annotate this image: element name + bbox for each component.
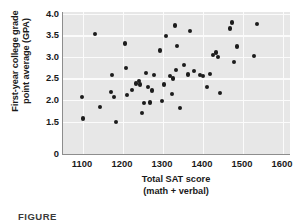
y-tick-label: 2.0 (33, 94, 59, 105)
scatter-point (144, 71, 148, 75)
scatter-point (178, 106, 182, 110)
x-tick-label: 1400 (182, 158, 222, 169)
x-tick-label: 1300 (142, 158, 182, 169)
scatter-point (208, 72, 212, 76)
plot-area (62, 12, 290, 155)
scatter-point (138, 82, 142, 86)
x-tick-label: 1100 (62, 158, 102, 169)
y-tick-label: 3.5 (33, 29, 59, 40)
scatter-point (173, 23, 177, 27)
scatter-point (216, 55, 220, 59)
scatter-point (232, 60, 236, 64)
scatter-point (130, 88, 134, 92)
scatter-point (80, 95, 84, 99)
x-tick-label: 1500 (222, 158, 262, 169)
scatter-point (109, 90, 113, 94)
x-axis-title-line1: Total SAT score (62, 174, 290, 186)
scatter-point (140, 111, 144, 115)
scatter-point (125, 93, 129, 97)
scatter-point (123, 41, 127, 45)
y-tick-label: 3.0 (33, 51, 59, 62)
scatter-point (186, 72, 190, 76)
scatter-point (93, 32, 97, 36)
scatter-point (174, 68, 178, 72)
y-axis-title-line1: First-year college grade (10, 0, 21, 131)
scatter-point (81, 116, 85, 120)
scatter-point (235, 44, 239, 48)
scatter-point (114, 120, 118, 124)
scatter-point (158, 48, 162, 52)
y-axis-tick-labels: 01.52.02.53.03.54.0 (30, 0, 59, 223)
scatter-point (162, 82, 166, 86)
x-axis-title-line2: (math + verbal) (62, 186, 290, 198)
scatter-point (170, 92, 174, 96)
scatter-point (255, 22, 259, 26)
scatter-point (98, 105, 102, 109)
scatter-point (205, 85, 209, 89)
y-tick-label: 4.0 (33, 8, 59, 19)
x-axis-tick-labels: 110012001300140015001600 (62, 158, 290, 172)
scatter-point (110, 73, 114, 77)
scatter-point (228, 26, 232, 30)
scatter-point (201, 74, 205, 78)
scatter-point (152, 73, 156, 77)
y-tick-label: 1.5 (33, 116, 59, 127)
scatter-point (192, 69, 196, 73)
scatter-point (182, 63, 186, 67)
scatter-points (63, 12, 290, 154)
scatter-point (175, 44, 179, 48)
y-tick-label: 2.5 (33, 72, 59, 83)
scatter-point (142, 101, 146, 105)
scatter-point (171, 76, 175, 80)
x-tick-label: 1600 (262, 158, 300, 169)
x-tick-label: 1200 (102, 158, 142, 169)
x-axis-title: Total SAT score (math + verbal) (62, 174, 290, 197)
scatter-point (150, 88, 154, 92)
figure-caption: FIGURE (18, 211, 57, 222)
scatter-point (164, 34, 168, 38)
scatter-point (160, 99, 164, 103)
figure-scatter-sat-gpa: First-year college grade point average (… (0, 0, 300, 223)
scatter-point (188, 29, 192, 33)
y-tick-label: 0 (33, 148, 59, 159)
scatter-point (148, 100, 152, 104)
scatter-point (218, 91, 222, 95)
scatter-point (230, 20, 234, 24)
scatter-point (252, 54, 256, 58)
scatter-point (214, 50, 218, 54)
scatter-point (112, 95, 116, 99)
scatter-point (124, 66, 128, 70)
